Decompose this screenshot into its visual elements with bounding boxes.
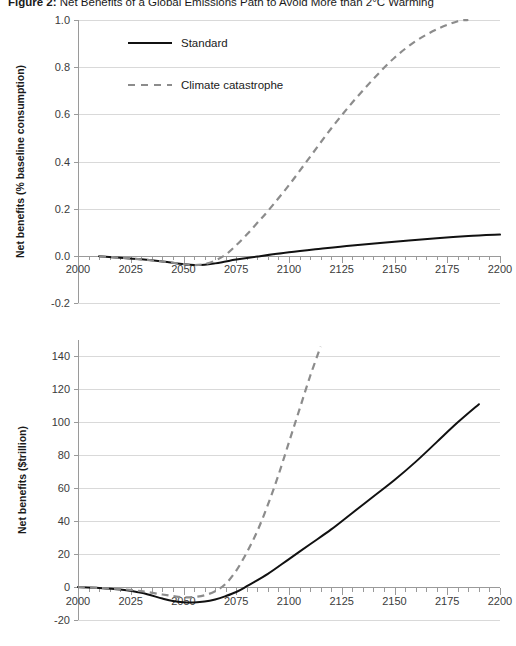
series-line-standard: [78, 404, 479, 602]
y-tick-label: 0.0: [55, 250, 70, 262]
x-tick-labels: 200020252050207521002125215021752200: [66, 595, 512, 607]
y-tick-labels: -20020406080100120140: [52, 350, 70, 626]
chart-panel-percent: -0.20.00.20.40.60.81.0200020252050207521…: [0, 8, 516, 313]
x-tick-label: 2175: [435, 595, 459, 607]
figure-number: Figure 2:: [8, 0, 57, 8]
y-axis-title: Net benefits (% baseline consumption): [14, 65, 26, 258]
figure-container: Figure 2: Net Benefits of a Global Emiss…: [0, 0, 516, 646]
x-tick-label: 2200: [488, 263, 512, 275]
x-tick-label: 2150: [382, 595, 406, 607]
y-tick-label: 0.6: [55, 108, 70, 120]
x-tick-label: 2000: [66, 595, 90, 607]
x-tick-label: 2100: [277, 263, 301, 275]
y-tick-label: 0.8: [55, 61, 70, 73]
x-tick-label: 2125: [330, 263, 354, 275]
y-tick-label: 60: [58, 482, 70, 494]
y-tick-label: 120: [52, 383, 70, 395]
x-tick-label: 2175: [435, 263, 459, 275]
y-tick-label: 1.0: [55, 14, 70, 26]
axes: [74, 340, 501, 621]
y-tick-label: 40: [58, 515, 70, 527]
y-tick-label: 0.2: [55, 203, 70, 215]
legend-label: Standard: [181, 37, 228, 49]
legend-label: Climate catastrophe: [181, 79, 283, 91]
y-tick-label: 140: [52, 350, 70, 362]
y-tick-label: 20: [58, 548, 70, 560]
chart-panel-trillion: -200204060801001201402000202520502075210…: [0, 330, 516, 646]
y-tick-label: -0.2: [51, 297, 70, 309]
gridlines: [78, 357, 500, 621]
series-line-catastrophe: [99, 20, 468, 265]
y-axis-title: Net benefits ($trillion): [16, 426, 28, 534]
x-tick-label: 2000: [66, 263, 90, 275]
y-tick-label: 0: [64, 581, 70, 593]
chart-svg-percent: -0.20.00.20.40.60.81.0200020252050207521…: [0, 8, 516, 313]
y-tick-label: -20: [54, 614, 70, 626]
x-tick-label: 2025: [119, 263, 143, 275]
x-tick-label: 2100: [277, 595, 301, 607]
x-tick-label: 2125: [330, 595, 354, 607]
y-tick-label: 100: [52, 416, 70, 428]
x-tick-label: 2025: [119, 595, 143, 607]
x-tick-labels: 200020252050207521002125215021752200: [66, 263, 512, 275]
figure-title-text: Net Benefits of a Global Emissions Path …: [60, 0, 434, 8]
series-line-catastrophe: [78, 347, 321, 598]
series-group: [99, 20, 500, 265]
y-tick-label: 80: [58, 449, 70, 461]
x-tick-label: 2075: [224, 263, 248, 275]
series-group: [78, 347, 479, 603]
x-tick-label: 2200: [488, 595, 512, 607]
chart-legend: StandardClimate catastrophe: [128, 37, 283, 91]
chart-svg-trillion: -200204060801001201402000202520502075210…: [0, 330, 516, 646]
x-tick-label: 2150: [382, 263, 406, 275]
y-tick-label: 0.4: [55, 156, 70, 168]
